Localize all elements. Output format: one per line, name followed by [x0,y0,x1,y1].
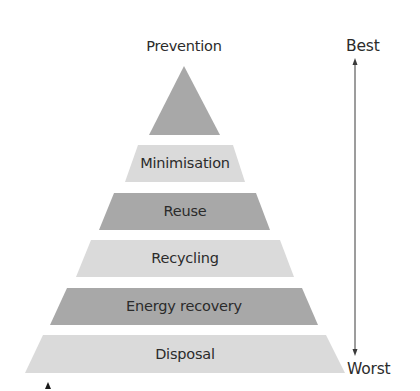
label-worst: Worst [347,362,390,378]
arrow-up-icon [353,58,358,65]
waste-hierarchy-pyramid [0,0,420,391]
label-energy-recovery: Energy recovery [126,299,242,314]
label-prevention: Prevention [146,39,222,54]
arrow-up-small-icon [45,382,51,389]
label-minimisation: Minimisation [140,156,230,171]
label-recycling: Recycling [151,251,219,266]
arrow-down-icon [353,349,358,356]
pyramid-apex-prevention [149,66,220,135]
label-reuse: Reuse [163,204,206,219]
label-best: Best [346,39,380,55]
label-disposal: Disposal [155,347,215,362]
